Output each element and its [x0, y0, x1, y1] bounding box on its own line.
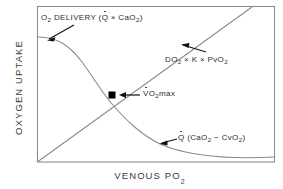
x-axis-label-subscript: 2 [181, 178, 186, 185]
q-cao2-cvo2-label: Q (CaO2 − CvO2) [178, 133, 246, 142]
do2-k-pvo2-label: DO2 × K × PvO2 [165, 55, 228, 64]
o2-delivery-prefix: O [41, 13, 48, 22]
do2-part1: DO [165, 55, 178, 64]
extraction-q-symbol: Q [178, 133, 185, 142]
extraction-part2-sub: 2 [239, 136, 243, 143]
o2-delivery-suffix: ) [140, 13, 143, 22]
vo2max-arrow [119, 92, 140, 98]
o2-delivery-mid-sub: 2 [136, 16, 140, 23]
o2-delivery-q-symbol: Q [102, 13, 109, 22]
vo2max-label: VO2max [143, 89, 175, 98]
figure-container: OXYGEN UPTAKE VENOUS PO2 O2 DELIVERY (Q … [0, 0, 283, 189]
x-axis-label: VENOUS PO2 [95, 170, 205, 183]
o2-delivery-word: DELIVERY ( [51, 13, 101, 22]
vo2max-marker [109, 92, 116, 99]
o2-delivery-mid: × CaO [108, 13, 136, 22]
extraction-part2: − CvO [211, 133, 238, 142]
plot-area [0, 0, 283, 189]
do2-part2: × K × PvO [182, 55, 225, 64]
do2-part1-sub: 2 [178, 58, 182, 65]
do2-arrow [181, 43, 206, 52]
y-axis-label: OXYGEN UPTAKE [13, 23, 24, 153]
vo2max-v-symbol: V [143, 89, 149, 98]
extraction-part1: (CaO [185, 133, 208, 142]
extraction-suffix: ) [242, 133, 245, 142]
o2-delivery-label: O2 DELIVERY (Q × CaO2) [41, 13, 143, 22]
vo2max-suffix: max [159, 89, 175, 98]
x-axis-label-text: VENOUS PO [114, 170, 180, 181]
vo2max-rest-sub: 2 [155, 92, 159, 99]
do2-part2-sub: 2 [224, 58, 228, 65]
delivery-arrow [47, 25, 74, 42]
o2-delivery-prefix-sub: 2 [48, 16, 52, 23]
extraction-part1-sub: 2 [208, 136, 212, 143]
